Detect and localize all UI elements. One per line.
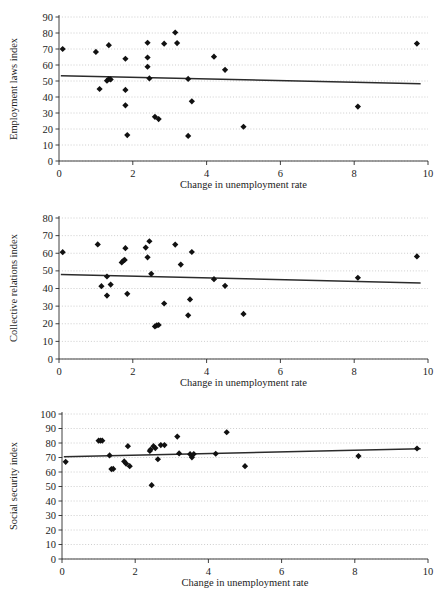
data-point — [240, 124, 246, 130]
data-point — [96, 86, 102, 92]
axes — [59, 216, 428, 359]
data-point — [185, 312, 191, 318]
data-point — [106, 42, 112, 48]
chart-panel-employment-laws: 01020304050607080900246810Change in unem… — [0, 0, 447, 196]
y-tick-label: 70 — [43, 44, 54, 55]
data-point — [144, 54, 150, 60]
axes — [59, 15, 428, 161]
data-point — [355, 275, 361, 281]
data-point — [144, 40, 150, 46]
x-axis-title: Change in unemployment rate — [180, 179, 307, 190]
data-point — [355, 453, 361, 459]
y-tick-label: 50 — [43, 265, 54, 276]
data-point — [95, 241, 101, 247]
scatter-plot-employment-laws: 01020304050607080900246810Change in unem… — [0, 0, 447, 196]
data-point — [174, 434, 180, 440]
y-axis-title: Collective relations index — [8, 233, 19, 342]
y-tick-label: 70 — [46, 452, 57, 463]
y-tick-label: 0 — [51, 554, 56, 565]
data-point — [93, 49, 99, 55]
data-point — [242, 463, 248, 469]
data-point — [149, 482, 155, 488]
data-point — [60, 249, 66, 255]
y-tick-label: 30 — [43, 108, 54, 119]
x-tick-label: 8 — [352, 566, 357, 577]
x-tick-label: 4 — [204, 168, 210, 179]
data-point — [125, 443, 131, 449]
data-point — [176, 450, 182, 456]
data-point — [122, 245, 128, 251]
data-point — [122, 102, 128, 108]
y-tick-label: 30 — [43, 301, 54, 312]
y-tick-label: 0 — [48, 354, 53, 365]
x-tick-label: 2 — [130, 366, 135, 377]
data-point — [144, 254, 150, 260]
x-tick-label: 10 — [423, 366, 434, 377]
y-axis-ticks: 01020304050607080 — [43, 213, 60, 365]
trend-line — [64, 449, 421, 457]
x-axis-ticks: 0246810 — [56, 359, 433, 377]
y-tick-label: 50 — [43, 76, 54, 87]
data-point — [222, 67, 228, 73]
scatter-plot-collective-relations: 010203040506070800246810Change in unempl… — [0, 198, 447, 394]
x-tick-label: 2 — [130, 168, 135, 179]
data-point — [211, 276, 217, 282]
figure-container: 01020304050607080900246810Change in unem… — [0, 0, 447, 596]
x-tick-label: 4 — [206, 566, 212, 577]
y-tick-label: 60 — [43, 60, 54, 71]
data-point — [224, 429, 230, 435]
data-point — [161, 300, 167, 306]
y-tick-label: 60 — [46, 467, 57, 478]
axes — [62, 412, 428, 559]
y-tick-label: 20 — [43, 318, 54, 329]
y-tick-label: 80 — [43, 213, 54, 224]
y-tick-label: 10 — [43, 140, 54, 151]
y-tick-label: 0 — [48, 156, 53, 167]
x-tick-label: 0 — [59, 566, 64, 577]
x-tick-label: 6 — [278, 168, 283, 179]
data-point — [155, 456, 161, 462]
y-axis-ticks: 0102030405060708090100 — [40, 409, 62, 565]
y-tick-label: 90 — [46, 423, 57, 434]
data-point — [355, 104, 361, 110]
data-point — [185, 133, 191, 139]
chart-panel-social-security: 01020304050607080901000246810Change in u… — [0, 396, 447, 596]
data-point — [122, 56, 128, 62]
data-point — [60, 46, 66, 52]
data-point — [124, 291, 130, 297]
x-axis-ticks: 0246810 — [56, 161, 433, 179]
data-point — [189, 249, 195, 255]
data-point — [211, 54, 217, 60]
y-tick-label: 20 — [43, 124, 54, 135]
x-tick-label: 0 — [56, 366, 61, 377]
y-tick-label: 80 — [46, 438, 57, 449]
data-point — [98, 283, 104, 289]
data-points — [60, 29, 420, 139]
data-point — [104, 273, 110, 279]
x-tick-label: 8 — [352, 366, 357, 377]
y-axis-ticks: 0102030405060708090 — [43, 12, 60, 167]
y-tick-label: 90 — [43, 12, 54, 23]
trend-line — [61, 274, 421, 283]
data-point — [414, 40, 420, 46]
data-point — [108, 282, 114, 288]
y-tick-label: 40 — [43, 283, 54, 294]
data-point — [104, 292, 110, 298]
y-tick-label: 80 — [43, 28, 54, 39]
data-point — [146, 75, 152, 81]
data-point — [146, 238, 152, 244]
y-tick-label: 10 — [46, 539, 57, 550]
gridlines — [59, 17, 428, 161]
x-axis-title: Change in unemployment rate — [180, 377, 307, 388]
data-points — [60, 238, 420, 329]
data-point — [122, 87, 128, 93]
chart-panel-collective-relations: 010203040506070800246810Change in unempl… — [0, 198, 447, 394]
y-tick-label: 100 — [40, 409, 56, 420]
data-point — [213, 451, 219, 457]
y-tick-label: 10 — [43, 336, 54, 347]
scatter-plot-social-security: 01020304050607080901000246810Change in u… — [0, 396, 447, 596]
data-point — [178, 261, 184, 267]
data-point — [240, 311, 246, 317]
data-point — [414, 253, 420, 259]
x-tick-label: 10 — [423, 566, 434, 577]
